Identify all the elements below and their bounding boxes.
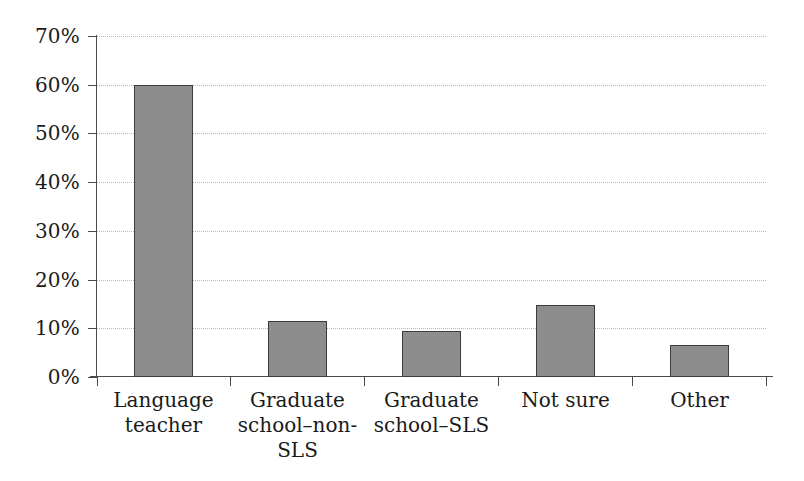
gridline-60 xyxy=(97,85,766,86)
y-tick-label-10: 10% xyxy=(10,318,80,338)
x-tick-label-not-sure: Not sure xyxy=(501,388,630,413)
y-tick-20 xyxy=(88,280,97,281)
gridline-40 xyxy=(97,182,766,183)
x-tick-boundary-1 xyxy=(230,377,231,386)
x-tick-boundary-0 xyxy=(97,377,98,386)
x-tick-label-graduate-school-sls: Graduate school–SLS xyxy=(367,388,496,438)
y-tick-0 xyxy=(88,377,97,378)
x-tick-boundary-4 xyxy=(632,377,633,386)
y-tick-label-60: 60% xyxy=(10,75,80,95)
bar-graduate-school-non-sls xyxy=(268,321,327,377)
bar-language-teacher xyxy=(134,85,193,377)
bar-other xyxy=(670,345,729,377)
x-tick-label-other: Other xyxy=(635,388,764,413)
y-tick-60 xyxy=(88,85,97,86)
y-tick-label-40: 40% xyxy=(10,172,80,192)
bar-not-sure xyxy=(536,305,595,377)
x-tick-label-graduate-school-non-sls: Graduate school–non- SLS xyxy=(233,388,362,463)
x-tick-label-language-teacher: Language teacher xyxy=(99,388,228,438)
gridline-50 xyxy=(97,133,766,134)
y-tick-label-50: 50% xyxy=(10,123,80,143)
gridline-30 xyxy=(97,231,766,232)
gridlines-group xyxy=(97,36,766,377)
x-tick-boundary-3 xyxy=(498,377,499,386)
y-tick-10 xyxy=(88,328,97,329)
x-tick-boundary-5 xyxy=(766,377,767,386)
bar-chart: 70% 60% 50% 40% 30% 20% 10% 0% Language … xyxy=(0,0,804,481)
y-tick-label-0: 0% xyxy=(10,367,80,387)
bar-graduate-school-sls xyxy=(402,331,461,377)
gridline-10 xyxy=(97,328,766,329)
y-tick-label-70: 70% xyxy=(10,26,80,46)
y-tick-30 xyxy=(88,231,97,232)
x-tick-boundary-2 xyxy=(364,377,365,386)
y-tick-70 xyxy=(88,36,97,37)
gridline-70 xyxy=(97,36,766,37)
y-tick-40 xyxy=(88,182,97,183)
y-tick-50 xyxy=(88,133,97,134)
gridline-20 xyxy=(97,280,766,281)
y-axis-line xyxy=(96,35,97,378)
y-tick-label-30: 30% xyxy=(10,221,80,241)
y-tick-label-20: 20% xyxy=(10,270,80,290)
